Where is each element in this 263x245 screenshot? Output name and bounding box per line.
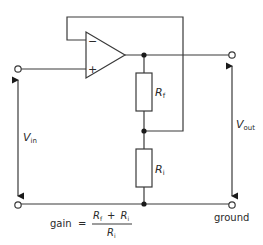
feedback-junction-dot bbox=[141, 128, 146, 133]
minus-input-sign: − bbox=[88, 35, 97, 48]
resistor-ri bbox=[136, 149, 152, 187]
gain-label: gain bbox=[50, 218, 72, 229]
numerator: Rf+Ri bbox=[93, 210, 129, 222]
feedback-wire bbox=[67, 17, 183, 131]
equals-sign: = bbox=[78, 218, 86, 229]
output-ground-terminal bbox=[229, 202, 235, 208]
denominator: Ri bbox=[107, 227, 116, 239]
vout-label: Vout bbox=[236, 118, 255, 132]
op-amp: − + bbox=[86, 32, 125, 78]
vin-label: Vin bbox=[23, 131, 37, 145]
ri-label: Ri bbox=[155, 163, 165, 177]
ground-label: ground bbox=[214, 212, 249, 223]
output-terminal bbox=[229, 52, 235, 58]
ground-junction-dot bbox=[141, 201, 146, 206]
rf-label: Rf bbox=[155, 86, 166, 100]
plus-input-sign: + bbox=[88, 63, 97, 76]
input-terminal bbox=[15, 66, 21, 72]
circuit-diagram: − + Rf Ri Vin Vout ground gain = bbox=[0, 0, 263, 245]
resistor-rf bbox=[136, 73, 152, 111]
gain-formula: gain = Rf+Ri Ri bbox=[50, 210, 132, 239]
output-junction-dot bbox=[141, 52, 146, 57]
input-ground-terminal bbox=[15, 202, 21, 208]
